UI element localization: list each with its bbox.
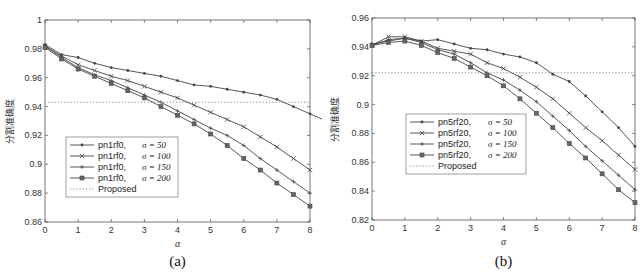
y-tick-label: 1 (37, 15, 42, 25)
y-tick-label: 0.94 (24, 102, 42, 112)
legend-label: pn1rf0, (98, 151, 126, 161)
x-tick-label: 8 (307, 225, 312, 235)
figure-caption: (a) (169, 253, 186, 270)
legend-label: Proposed (98, 184, 137, 194)
y-tick-label: 0.86 (351, 157, 369, 167)
x-axis-label: α (175, 238, 181, 249)
legend-label: pn1rf0, (98, 173, 126, 183)
legend-label: pn5rf20, (438, 150, 471, 160)
legend-sigma: σ = 50 (142, 140, 167, 150)
x-tick-label: 3 (142, 225, 147, 235)
x-tick-label: 3 (468, 223, 473, 233)
y-tick-label: 0.92 (24, 130, 42, 140)
legend-sigma: σ = 50 (488, 117, 513, 127)
y-axis-label: 分割准确度 (329, 97, 340, 142)
chart-b: 0123456780.820.840.860.880.90.920.940.96… (322, 0, 643, 276)
x-tick-label: 6 (241, 225, 246, 235)
y-tick-label: 0.9 (29, 159, 42, 169)
legend-sigma: σ = 100 (142, 151, 171, 161)
chart-panel-a: 0123456780.860.880.90.920.940.960.981α分割… (0, 0, 322, 276)
legend-sigma: σ = 200 (142, 173, 171, 183)
figure-caption: (b) (495, 253, 513, 270)
y-tick-label: 0.96 (351, 13, 369, 23)
legend-label: pn5rf20, (438, 117, 471, 127)
x-tick-label: 6 (567, 223, 572, 233)
chart-a: 0123456780.860.880.90.920.940.960.981α分割… (0, 0, 322, 276)
y-tick-label: 0.84 (351, 186, 369, 196)
y-tick-label: 0.88 (351, 128, 369, 138)
y-axis-label: 分割准确度 (4, 99, 15, 144)
legend-sigma: σ = 100 (488, 128, 517, 138)
x-axis-label: α (501, 236, 507, 247)
y-tick-label: 0.9 (356, 100, 369, 110)
x-tick-label: 0 (369, 223, 374, 233)
legend: pn5rf20,σ = 50pn5rf20,σ = 100pn5rf20,σ =… (406, 114, 526, 174)
legend-label: pn1rf0, (98, 162, 126, 172)
legend-label: pn1rf0, (98, 140, 126, 150)
x-tick-label: 2 (109, 225, 114, 235)
legend-sigma: σ = 150 (488, 139, 517, 149)
x-tick-label: 4 (501, 223, 506, 233)
y-tick-label: 0.86 (24, 217, 42, 227)
y-tick-label: 0.98 (24, 44, 42, 54)
y-tick-label: 0.82 (351, 215, 369, 225)
x-tick-label: 7 (274, 225, 279, 235)
x-tick-label: 8 (632, 223, 637, 233)
x-tick-label: 2 (435, 223, 440, 233)
legend-label: pn5rf20, (438, 128, 471, 138)
legend-label: Proposed (438, 161, 477, 171)
x-tick-label: 1 (402, 223, 407, 233)
legend-label: pn5rf20, (438, 139, 471, 149)
y-tick-label: 0.88 (24, 188, 42, 198)
legend-sigma: σ = 150 (142, 162, 171, 172)
legend: pn1rf0,σ = 50pn1rf0,σ = 100pn1rf0,σ = 15… (66, 137, 178, 197)
chart-panel-b: 0123456780.820.840.860.880.90.920.940.96… (322, 0, 643, 276)
series-sigma-50 (44, 43, 322, 122)
x-tick-label: 4 (175, 225, 180, 235)
x-tick-label: 5 (534, 223, 539, 233)
y-tick-label: 0.94 (351, 42, 369, 52)
x-tick-label: 7 (600, 223, 605, 233)
legend-sigma: σ = 200 (488, 150, 517, 160)
y-tick-label: 0.92 (351, 71, 369, 81)
x-tick-label: 5 (208, 225, 213, 235)
x-tick-label: 0 (42, 225, 47, 235)
y-tick-label: 0.96 (24, 73, 42, 83)
x-tick-label: 1 (76, 225, 81, 235)
